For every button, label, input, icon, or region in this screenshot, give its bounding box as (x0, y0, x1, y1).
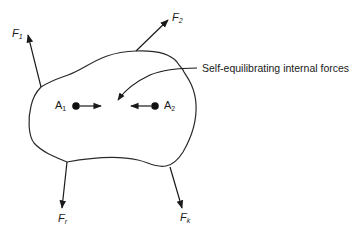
force-symbol: F (58, 212, 65, 224)
force-subscript: k (187, 217, 191, 224)
force-label-fk: Fk (180, 212, 190, 224)
annotation-label: Self-equilibrating internal forces (202, 63, 349, 74)
force-label-f1: F1 (12, 28, 23, 40)
force-arrow-f1 (28, 35, 41, 87)
force-label-f2: F2 (172, 12, 183, 24)
point-subscript: 2 (171, 105, 175, 112)
point-a2-dot (151, 102, 159, 110)
force-symbol: F (12, 27, 19, 39)
force-subscript: 2 (179, 17, 183, 24)
force-arrow-fr (62, 162, 67, 208)
force-symbol: F (172, 11, 179, 23)
force-subscript: 1 (19, 33, 23, 40)
free-body-diagram: F1 F2 Fr Fk A1 A2 Self-equilibrating int… (0, 0, 359, 233)
point-label-a2: A2 (164, 100, 175, 112)
force-arrow-f2 (136, 20, 168, 51)
diagram-canvas (0, 0, 359, 233)
point-a1-dot (72, 102, 80, 110)
force-arrow-fk (170, 167, 182, 208)
force-label-fr: Fr (58, 213, 67, 225)
force-subscript: r (65, 218, 67, 225)
point-label-a1: A1 (55, 100, 66, 112)
force-symbol: F (180, 211, 187, 223)
point-subscript: 1 (62, 105, 66, 112)
